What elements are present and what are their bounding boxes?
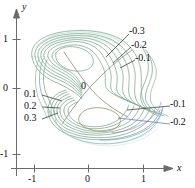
y-tick-label-0: 0 bbox=[3, 83, 8, 93]
contour-path-zero-branch-a bbox=[62, 50, 132, 124]
y-tick-label-1: 1 bbox=[3, 34, 8, 44]
y-axis-label: y bbox=[22, 2, 26, 12]
contour-label-zero: 0 bbox=[81, 81, 86, 91]
y-tick-label-neg1: -1 bbox=[0, 149, 8, 159]
x-axis-arrowhead bbox=[164, 166, 173, 172]
contour-label-pos-0-3-left: 0.3 bbox=[24, 113, 37, 123]
x-tick-label-0: 0 bbox=[85, 174, 90, 184]
y-axis-arrowhead bbox=[14, 9, 20, 18]
contour-label-pos-0-2-left: 0.2 bbox=[24, 101, 37, 111]
contour-plot-figure: -0.3 -0.2 -0.1 -0.1 -0.2 0.1 0.2 0.3 0 y… bbox=[0, 0, 195, 188]
x-tick-label-1: 1 bbox=[141, 174, 146, 184]
contour-path-left-shoulder-3 bbox=[35, 58, 47, 118]
contour-lines-group bbox=[32, 30, 168, 146]
contour-label-neg-0-2-right: -0.2 bbox=[170, 117, 186, 127]
contour-label-neg-0-1-right: -0.1 bbox=[170, 99, 186, 109]
contour-path-pos-tint-teal bbox=[55, 109, 162, 144]
x-tick-label-neg1: -1 bbox=[28, 174, 36, 184]
contour-label-neg-0-3-top: -0.3 bbox=[129, 26, 145, 36]
contour-label-neg-0-1-top: -0.1 bbox=[135, 53, 151, 63]
x-axis-label: x bbox=[177, 163, 181, 173]
contour-label-pos-0-1-left: 0.1 bbox=[24, 89, 37, 99]
contour-label-neg-0-2-top: -0.2 bbox=[131, 40, 147, 50]
